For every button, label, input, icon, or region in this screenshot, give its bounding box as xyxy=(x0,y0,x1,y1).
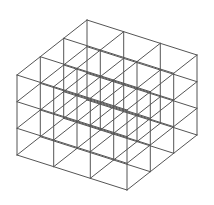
edge-left-direction xyxy=(40,137,150,172)
edge-right-direction xyxy=(17,20,87,75)
lattice-lines xyxy=(17,20,197,190)
edge-left-direction xyxy=(64,38,174,73)
cube-lattice-wireframe xyxy=(0,0,214,205)
edge-left-direction xyxy=(87,20,197,55)
edge-right-direction xyxy=(127,135,197,190)
edge-left-direction xyxy=(17,155,127,190)
